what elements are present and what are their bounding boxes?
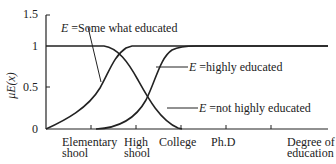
y-axis-label: μE(x) bbox=[6, 72, 17, 99]
x-tick-elementary: Elementary shool bbox=[62, 137, 117, 159]
y-tick-0-5: 0.5 bbox=[18, 82, 38, 93]
series-not-highly-educated bbox=[46, 46, 182, 129]
y-tick-1-5: 1.5 bbox=[18, 9, 38, 20]
series-highly-educated bbox=[96, 46, 328, 129]
x-tick-phd: Ph.D bbox=[211, 137, 235, 148]
series-somewhat-educated bbox=[46, 46, 328, 129]
x-tick-high-school: High shool bbox=[124, 137, 150, 159]
leader-somewhat bbox=[88, 27, 101, 82]
y-tick-0: 0 bbox=[18, 124, 38, 135]
x-axis-label: Degree of education bbox=[287, 137, 335, 159]
annotation-highly-educated: E =highly educated bbox=[189, 62, 282, 73]
x-tick-college: College bbox=[159, 137, 196, 148]
chart: 1.5 1 0.5 0 μE(x) Elementary shool High … bbox=[0, 0, 336, 164]
annotation-somewhat-educated: E =Some what educated bbox=[61, 23, 177, 34]
y-tick-1: 1 bbox=[18, 41, 38, 52]
annotation-not-highly-educated: E =not highly educated bbox=[199, 103, 311, 114]
